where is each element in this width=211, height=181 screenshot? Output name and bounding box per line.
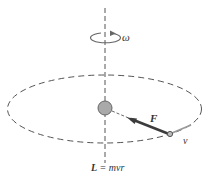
angular-momentum-symbol: L [90,162,97,173]
velocity-vector [172,125,191,133]
force-label: F [149,112,158,124]
central-mass [98,101,112,115]
diagram-canvas: ω F v L = mvr [0,0,211,181]
rotation-arrow-icon [91,31,121,43]
orbiting-particle [167,131,172,136]
velocity-label: v [183,135,188,146]
omega-label: ω [122,31,130,43]
force-arrowhead-icon [127,118,137,125]
angular-momentum-expression: = mvr [97,162,124,173]
angular-momentum-equation: L = mvr [90,162,125,173]
